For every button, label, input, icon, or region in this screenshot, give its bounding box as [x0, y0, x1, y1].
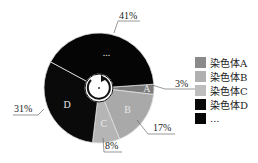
legend-swatch: [195, 99, 206, 110]
legend-swatch: [195, 113, 206, 124]
legend-item-a: 染色体A: [195, 55, 248, 69]
legend-swatch: [195, 57, 206, 68]
legend-label: 染色体B: [210, 69, 247, 84]
percent-label: 17%: [153, 122, 171, 133]
legend-label: 染色体A: [210, 55, 247, 70]
legend-swatch: [195, 85, 206, 96]
slice-label: C: [100, 118, 107, 129]
legend-item-d: 染色体D: [195, 97, 248, 111]
slice-label: B: [124, 104, 131, 115]
center-dot: [98, 87, 100, 89]
legend-label: 染色体C: [210, 83, 248, 98]
slice-label: ...: [103, 47, 111, 58]
legend-swatch: [195, 71, 206, 82]
legend-label: 染色体D: [210, 97, 248, 112]
legend-item-c: 染色体C: [195, 83, 248, 97]
leader-line: [114, 21, 140, 33]
percent-label: 3%: [175, 78, 188, 89]
legend: 染色体A 染色体B 染色体C 染色体D ...: [195, 55, 248, 125]
legend-label: ...: [210, 113, 220, 124]
percent-label: 41%: [119, 10, 137, 21]
percent-label: 31%: [14, 103, 32, 114]
leader-line: [152, 85, 195, 89]
slice-label: D: [63, 99, 70, 110]
legend-item-other: ...: [195, 111, 248, 125]
legend-item-b: 染色体B: [195, 69, 248, 83]
percent-label: 8%: [105, 140, 118, 151]
